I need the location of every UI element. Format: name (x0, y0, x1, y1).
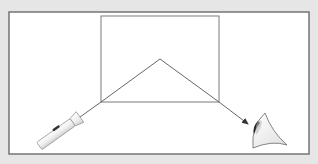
light-reflection-diagram (0, 0, 318, 164)
